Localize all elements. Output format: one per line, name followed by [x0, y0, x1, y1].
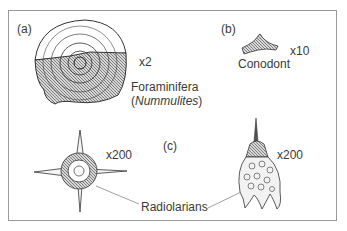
magnification-a: x2	[139, 55, 152, 69]
conodont-label: Conodont	[238, 57, 290, 71]
leader-line-left	[96, 186, 139, 204]
panel-label-a: (a)	[17, 22, 32, 36]
leader-line-right	[208, 192, 241, 208]
fossil-illustrations	[0, 0, 347, 231]
radiolarian-bell-icon	[239, 118, 281, 209]
panel-label-b: (b)	[221, 22, 236, 36]
radiolarian-star-icon	[34, 130, 127, 212]
foraminifera-label: Foraminifera	[131, 80, 198, 94]
magnification-b: x10	[290, 44, 309, 58]
foraminifera-icon	[35, 20, 126, 104]
magnification-c-left: x200	[106, 148, 132, 162]
paren-close: )	[198, 94, 202, 108]
magnification-c-right: x200	[277, 148, 303, 162]
nummulites-italic: Nummulites	[135, 94, 198, 108]
conodont-icon	[242, 34, 278, 54]
nummulites-label: (Nummulites)	[131, 94, 202, 108]
panel-label-c: (c)	[163, 139, 177, 153]
radiolarians-label: Radiolarians	[141, 200, 208, 214]
